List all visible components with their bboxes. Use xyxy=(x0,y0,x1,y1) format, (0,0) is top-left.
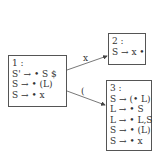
state-3: 3 : S → (• L) L → • S L → • L,S S → • (L… xyxy=(106,80,152,151)
lr-item: L → • L,S xyxy=(110,115,148,126)
lr-item: S → x • xyxy=(112,47,142,58)
lr-item: S → • x xyxy=(12,90,63,101)
state-label: 1 : xyxy=(12,58,63,69)
state-2: 2 : S → x • xyxy=(108,33,146,65)
lr-item: S' → • S $ xyxy=(12,69,63,80)
arrow-1-to-3 xyxy=(67,91,105,105)
lr-item: S → • (L) xyxy=(12,79,63,90)
state-1: 1 : S' → • S $ S → • (L) S → • x xyxy=(8,55,67,107)
lr-item: S → • x xyxy=(110,136,148,147)
state-label: 2 : xyxy=(112,36,142,47)
lr-item: S → (• L) xyxy=(110,94,148,105)
transition-label-paren: ( xyxy=(81,86,85,96)
state-label: 3 : xyxy=(110,83,148,94)
lr-item: S → • (L) xyxy=(110,125,148,136)
lr-item: L → • S xyxy=(110,104,148,115)
transition-label-x: x xyxy=(83,53,88,63)
